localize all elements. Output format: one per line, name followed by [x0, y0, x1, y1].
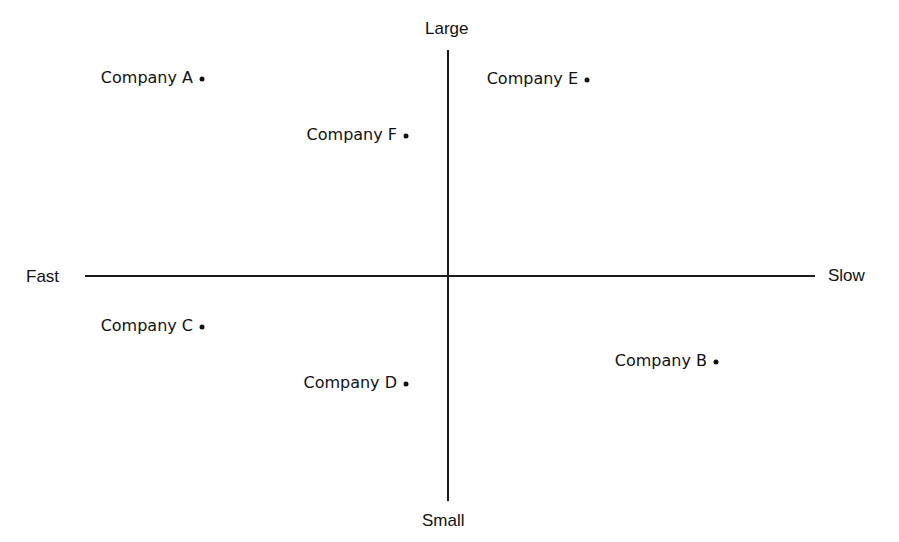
axis-label-small: Small	[422, 511, 465, 531]
horizontal-axis	[85, 275, 815, 277]
data-point-company-c	[200, 325, 205, 330]
vertical-axis	[447, 50, 449, 501]
point-label-company-d: Company D	[303, 373, 397, 392]
data-point-company-f	[404, 134, 409, 139]
point-label-company-a: Company A	[101, 68, 193, 87]
point-label-company-e: Company E	[487, 69, 578, 88]
data-point-company-e	[585, 78, 590, 83]
point-label-company-b: Company B	[615, 351, 707, 370]
data-point-company-d	[404, 382, 409, 387]
data-point-company-a	[200, 77, 205, 82]
point-label-company-c: Company C	[101, 316, 193, 335]
axis-label-large: Large	[425, 19, 468, 39]
axis-label-slow: Slow	[828, 266, 865, 286]
data-point-company-b	[714, 360, 719, 365]
point-label-company-f: Company F	[307, 125, 397, 144]
axis-label-fast: Fast	[26, 267, 59, 287]
